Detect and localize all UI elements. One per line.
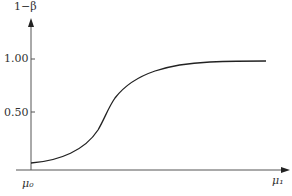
y-axis-arrow-icon (28, 18, 34, 27)
power-curve-chart (0, 0, 292, 196)
y-tick-label-050: 0.50 (4, 106, 29, 119)
x-axis-arrow-icon (281, 167, 290, 173)
y-tick-label-100: 1.00 (4, 52, 29, 65)
y-axis-label: 1−β (14, 0, 37, 13)
x-origin-label: μ₀ (22, 177, 34, 190)
x-axis-label: μ₁ (272, 174, 284, 187)
power-curve (31, 61, 266, 163)
